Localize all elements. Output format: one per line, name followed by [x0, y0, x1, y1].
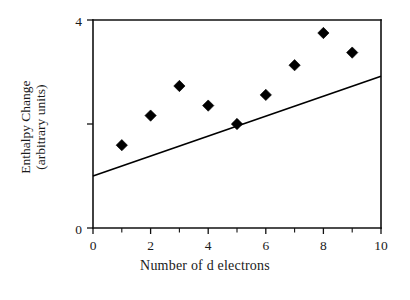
x-tick-label-2: 2	[147, 238, 154, 253]
chart-figure: 4 0 0 2 4 6 8 10 Number of d electrons E…	[0, 0, 410, 300]
y-tick-marks	[87, 20, 93, 228]
x-tick-label-10: 10	[374, 238, 388, 253]
x-tick-labels: 0 2 4 6 8 10	[90, 238, 388, 253]
data-markers	[116, 27, 358, 151]
x-tick-label-0: 0	[90, 238, 97, 253]
data-point-d2	[145, 110, 156, 121]
y-axis-title-line-1: Enthalpy Change	[18, 22, 33, 232]
x-tick-label-8: 8	[320, 238, 327, 253]
x-tick-marks	[93, 228, 381, 234]
data-point-d6	[260, 89, 271, 100]
y-tick-labels: 4 0	[75, 14, 82, 237]
data-point-d3	[174, 80, 185, 91]
y-axis-title: Enthalpy Change (arbitrary units)	[18, 22, 48, 232]
x-axis-title: Number of d electrons	[0, 258, 410, 274]
x-tick-label-4: 4	[205, 238, 212, 253]
x-tick-label-6: 6	[262, 238, 269, 253]
data-point-d4	[203, 100, 214, 111]
y-tick-label-0: 0	[75, 222, 82, 237]
data-point-d1	[116, 140, 127, 151]
data-point-d8	[318, 27, 329, 38]
y-tick-label-4: 4	[75, 14, 82, 29]
data-point-d9	[347, 47, 358, 58]
data-point-d7	[289, 60, 300, 71]
y-axis-title-line-2: (arbitrary units)	[33, 22, 48, 232]
plot-canvas: 4 0 0 2 4 6 8 10	[0, 0, 410, 300]
